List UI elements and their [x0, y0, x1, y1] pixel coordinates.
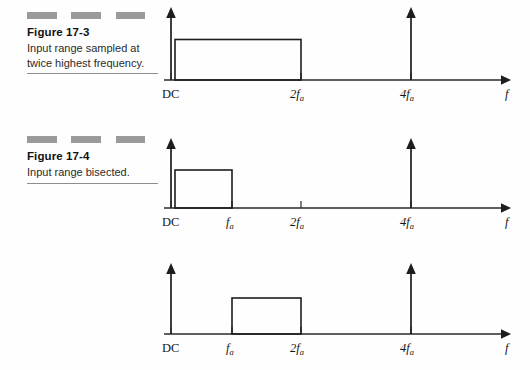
- caption-divider: [27, 183, 158, 184]
- xtick-label-4fa: 4fa: [400, 215, 414, 231]
- dash-mark-3: [116, 136, 145, 143]
- dash-mark-3: [116, 12, 145, 19]
- xtick-label-dc: DC: [162, 215, 179, 229]
- xtick-label-2fa: 2fa: [290, 87, 304, 103]
- dash-mark-1: [27, 12, 57, 19]
- caption-dash-decoration: [27, 12, 159, 19]
- xtick-label-4fa: 4fa: [400, 87, 414, 103]
- x-axis-arrowhead: [501, 75, 511, 85]
- caption-dash-decoration: [27, 136, 159, 143]
- xtick-label-2fa: 2fa: [290, 215, 304, 231]
- figure-page: Figure 17-3 Input range sampled at twice…: [0, 0, 530, 370]
- dash-mark-2: [71, 136, 101, 143]
- x-axis-arrowhead: [501, 203, 511, 213]
- caption-text: Input range bisected.: [27, 165, 159, 180]
- caption-text: Input range sampled at twice highest fre…: [27, 41, 159, 70]
- dc-axis-arrowhead: [166, 263, 176, 274]
- spectrum-chart-1: DC 2fa 4fa f: [160, 2, 520, 110]
- dc-axis-arrowhead: [166, 138, 176, 149]
- xtick-label-2fa: 2fa: [290, 341, 304, 357]
- spectrum-chart-3: DC fa 2fa 4fa f: [160, 252, 520, 362]
- dc-axis-arrowhead: [166, 7, 176, 18]
- input-band-rect: [175, 170, 232, 208]
- caption-title: Figure 17-3: [27, 25, 159, 40]
- spectrum-chart-2: DC fa 2fa 4fa f: [160, 130, 520, 238]
- x-axis-label-f: f: [505, 215, 510, 229]
- dash-mark-1: [27, 136, 57, 143]
- xtick-label-fa: fa: [226, 215, 234, 231]
- x-axis-label-f: f: [505, 87, 510, 101]
- xtick-label-dc: DC: [162, 341, 179, 355]
- xtick-label-dc: DC: [162, 87, 179, 101]
- spike-4fa-arrowhead: [406, 263, 416, 274]
- caption-block-figure-17-3: Figure 17-3 Input range sampled at twice…: [27, 12, 159, 74]
- caption-divider: [27, 73, 158, 74]
- caption-title: Figure 17-4: [27, 149, 159, 164]
- input-band-rect: [175, 40, 301, 81]
- dash-mark-2: [71, 12, 101, 19]
- x-axis-label-f: f: [505, 341, 510, 355]
- x-axis-arrowhead: [501, 329, 511, 339]
- spike-4fa-arrowhead: [406, 7, 416, 18]
- caption-block-figure-17-4: Figure 17-4 Input range bisected.: [27, 136, 159, 184]
- input-band-rect: [232, 298, 301, 334]
- xtick-label-fa: fa: [226, 341, 234, 357]
- spike-4fa-arrowhead: [406, 138, 416, 149]
- xtick-label-4fa: 4fa: [400, 341, 414, 357]
